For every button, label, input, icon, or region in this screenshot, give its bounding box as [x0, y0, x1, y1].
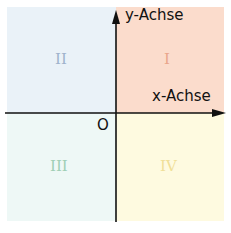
- y-axis-arrow-icon: [112, 10, 120, 24]
- x-axis-arrow-icon: [212, 109, 226, 117]
- axes: [0, 0, 231, 233]
- y-axis-label: y-Achse: [125, 6, 184, 24]
- origin-label: O: [97, 116, 109, 134]
- x-axis-label: x-Achse: [152, 87, 211, 105]
